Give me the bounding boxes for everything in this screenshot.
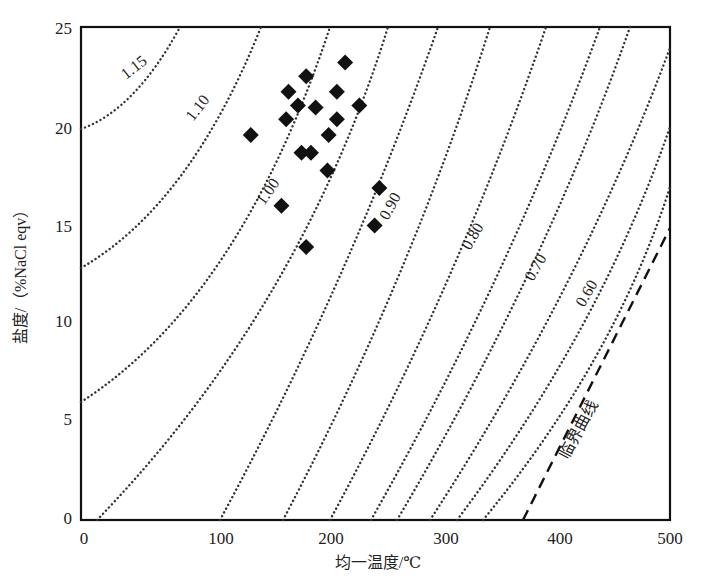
data-point-diamond	[303, 145, 319, 161]
plot-frame	[81, 27, 670, 520]
critical-curve	[523, 228, 670, 520]
y-tick-0: 0	[64, 509, 73, 528]
isoline-0-80	[397, 27, 630, 520]
isoline-1-10	[81, 27, 261, 268]
x-tick-100: 100	[208, 529, 234, 548]
isoline-0-65	[483, 187, 670, 520]
x-tick-200: 200	[318, 529, 344, 548]
data-point-diamond	[298, 68, 314, 84]
label-0-60: 0.60	[572, 277, 601, 310]
label-0-70: 0.70	[521, 251, 550, 284]
label-1-10: 1.10	[182, 91, 213, 124]
x-tick-400: 400	[547, 529, 573, 548]
isoline-0-70	[457, 127, 670, 520]
data-point-diamond	[281, 84, 297, 100]
data-point-diamond	[319, 162, 335, 178]
data-points	[243, 54, 388, 255]
y-tick-20: 20	[55, 119, 72, 138]
label-critical-curve: 临界曲线	[556, 397, 601, 461]
data-point-diamond	[329, 111, 345, 127]
x-tick-300: 300	[433, 529, 459, 548]
data-point-diamond	[308, 100, 324, 116]
data-point-diamond	[337, 54, 353, 70]
data-point-diamond	[298, 239, 314, 255]
density-isolines	[81, 27, 670, 520]
data-point-diamond	[278, 111, 294, 127]
label-1-15: 1.15	[117, 52, 150, 83]
x-axis-title: 均一温度/℃	[335, 554, 421, 571]
data-point-diamond	[290, 98, 306, 114]
data-point-diamond	[273, 198, 289, 214]
data-point-diamond	[351, 98, 367, 114]
x-axis: 0 100 200 300 400 500 均一温度/℃	[80, 529, 683, 571]
y-tick-15: 15	[55, 217, 72, 236]
salinity-temperature-chart: 1.15 1.10 1.00 0.90 0.80 0.70 0.60 临界曲线 …	[0, 0, 706, 584]
y-tick-25: 25	[55, 19, 72, 38]
isoline-1-025	[97, 27, 388, 520]
isoline-0-75	[430, 48, 670, 520]
isoline-1-05	[81, 27, 330, 402]
isoline-0-95	[283, 27, 490, 520]
data-point-diamond	[367, 217, 383, 233]
y-tick-10: 10	[55, 312, 72, 331]
y-axis-title: 盐度/（%NaCl eqv）	[12, 202, 30, 345]
label-0-80: 0.80	[458, 220, 487, 253]
data-point-diamond	[243, 127, 259, 143]
data-point-diamond	[321, 127, 337, 143]
y-tick-5: 5	[64, 410, 73, 429]
x-tick-500: 500	[657, 529, 683, 548]
data-point-diamond	[329, 84, 345, 100]
y-axis: 25 20 15 10 5 0 盐度/（%NaCl eqv）	[12, 19, 72, 528]
x-tick-0: 0	[80, 529, 89, 548]
isoline-1-00	[220, 27, 438, 520]
